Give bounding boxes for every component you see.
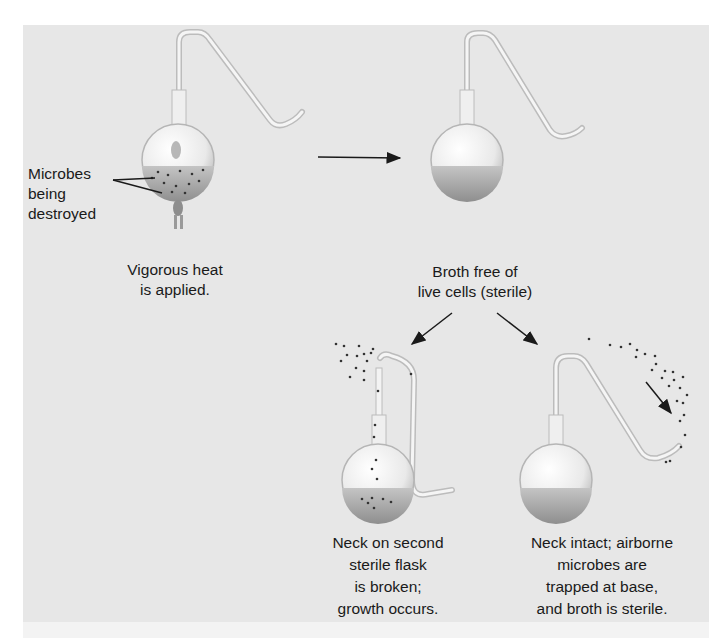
flask-sterile [431, 33, 582, 202]
arrow-right [318, 157, 400, 158]
caption-sterile: Broth free of live cells (sterile) [390, 262, 560, 302]
caption-heating: Vigorous heat is applied. [100, 260, 250, 300]
arrow-down-left [412, 313, 452, 344]
caption-intact: Neck intact; airborne microbes are trapp… [502, 532, 702, 620]
caption-broken: Neck on second sterile flask is broken; … [308, 532, 468, 620]
airflow-arrow [646, 382, 671, 413]
arrow-down-right [497, 313, 537, 344]
flask-broken [335, 343, 452, 524]
microbes-label: Microbes being destroyed [28, 164, 96, 224]
flask-heating [113, 32, 302, 229]
flask-intact [520, 338, 688, 524]
